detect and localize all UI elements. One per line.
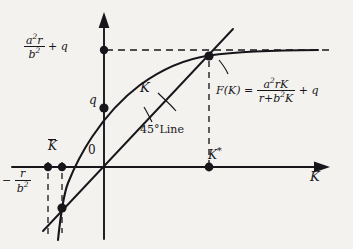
k-star-label: K* (208, 146, 222, 161)
dot-lower-intersection (57, 203, 66, 212)
negative-r-over-b-squared-label: − r b2 (2, 168, 31, 194)
k-bar-label: K (48, 140, 57, 152)
asymptote-value-label: a2r b2 + q (24, 33, 68, 60)
dot-q-intercept (99, 103, 108, 112)
q-intercept-label: q (89, 94, 97, 106)
y-axis-arrowhead (99, 12, 110, 28)
dot-k-bar-axis (58, 163, 66, 171)
forty-five-degree-line-label: 45°Line (140, 124, 184, 135)
forty-five-degree-line (43, 29, 233, 231)
x-axis-label: K (310, 170, 320, 183)
dot-neg-r-axis (44, 163, 52, 171)
dot-intersection-k-star (204, 51, 213, 60)
function-formula-label: F(K) = a2rK r+b2K + q (216, 77, 318, 104)
dot-asymptote-level (100, 46, 108, 54)
k-label-leader (158, 93, 176, 111)
curve-k-label: K (140, 81, 150, 94)
fk-label-leader (219, 60, 228, 74)
dot-k-star-axis (205, 163, 214, 172)
origin-label: 0 (88, 144, 96, 156)
function-diagram: a2r b2 + q q 0 K − r b2 K 45°Line F(K) =… (0, 0, 353, 249)
